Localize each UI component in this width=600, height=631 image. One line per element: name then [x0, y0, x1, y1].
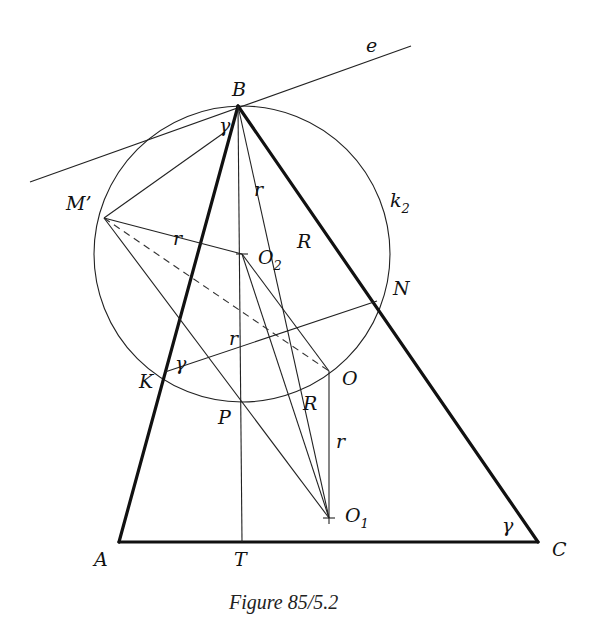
angle-gamma-C: γ: [502, 514, 514, 536]
side-AB: [119, 106, 238, 542]
label-O1: O1: [345, 504, 369, 531]
segment-O2-O1: [242, 254, 329, 518]
segment-M-B: [104, 132, 225, 218]
label-R-lower: R: [302, 392, 317, 414]
label-k2: k2: [390, 189, 410, 216]
segment-B-O1: [238, 106, 329, 518]
figure-caption: Figure 85/5.2: [228, 591, 338, 614]
label-B: B: [231, 78, 246, 100]
label-R-upper: R: [296, 230, 311, 252]
angle-gamma-K: γ: [175, 352, 187, 374]
label-r-O2P: r: [229, 327, 240, 349]
label-T: T: [234, 548, 248, 570]
label-O2: O2: [258, 246, 282, 273]
label-C: C: [552, 538, 567, 560]
chord-KN: [165, 301, 377, 372]
segment-M-O-dashed: [104, 218, 329, 371]
geometry-figure: B A C T M’ K N P O O2 O1 k2 e r r r r R …: [0, 0, 600, 631]
label-P: P: [217, 406, 232, 428]
label-A: A: [92, 548, 108, 570]
label-M-prime: M’: [65, 192, 92, 214]
label-r-BO2: r: [254, 178, 265, 200]
segment-O2-O: [242, 254, 329, 371]
angle-gamma-B: γ: [219, 114, 231, 136]
label-K: K: [138, 370, 155, 392]
label-O: O: [342, 367, 358, 389]
label-e: e: [366, 34, 377, 56]
label-N: N: [392, 277, 411, 299]
label-r-OO1: r: [336, 430, 347, 452]
altitude-BT: [238, 106, 242, 542]
side-BC: [238, 106, 538, 542]
